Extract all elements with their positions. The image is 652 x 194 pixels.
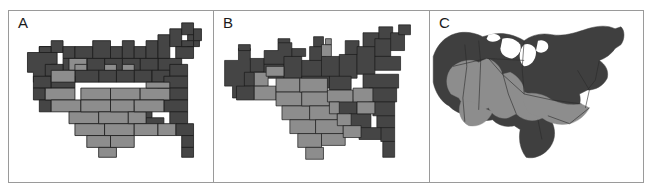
hexagon-tile-cartogram-map (214, 11, 429, 182)
figure-frame: A (8, 10, 644, 183)
square-tile-cartogram-map (9, 11, 213, 182)
panel-b: B (214, 11, 430, 182)
panel-b-label: B (223, 15, 233, 30)
continuous-area-cartogram-map (430, 11, 643, 182)
panel-c-label: C (439, 15, 450, 30)
panel-a: A (9, 11, 214, 182)
panel-a-label: A (18, 15, 28, 30)
panel-c: C (430, 11, 643, 182)
